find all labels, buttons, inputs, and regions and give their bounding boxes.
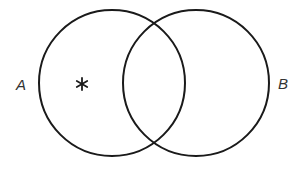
asterisk-icon [77,78,87,90]
set-label-b: B [278,76,288,91]
circle-a [39,10,185,156]
venn-svg [0,0,299,169]
venn-diagram: A B [0,0,299,169]
circle-b [123,10,269,156]
set-label-a: A [16,77,26,92]
